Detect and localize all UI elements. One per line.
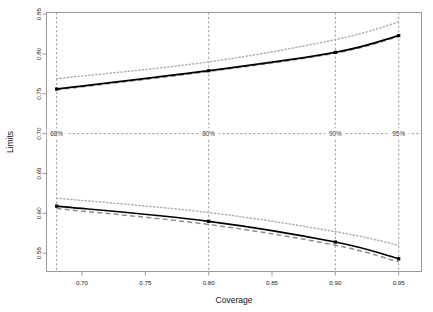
y-axis-title: Limits [5,131,15,153]
annotation-label-95pct: 95% [392,130,405,137]
x-axis-title: Coverage [216,295,253,305]
data-point-marker [397,257,400,260]
data-point-marker [55,87,58,90]
annotation-label-90pct: 90% [329,130,342,137]
y-tick-label: 0.70 [35,127,42,140]
x-tick-label: 0.70 [76,279,89,286]
data-point-marker [334,51,337,54]
y-tick-label: 0.65 [35,167,42,180]
annotation-label-80pct: 80% [202,130,215,137]
chart-figure: 0.550.600.650.700.750.800.85 0.700.750.8… [0,0,433,312]
y-tick-label: 0.75 [35,87,42,100]
data-point-marker [207,220,210,223]
y-tick-label: 0.80 [35,47,42,60]
y-tick-label: 0.85 [35,8,42,21]
annotation-label-68pct: 68% [50,130,63,137]
data-point-marker [334,240,337,243]
data-point-marker [397,34,400,37]
x-tick-label: 0.85 [266,279,279,286]
coverage-limits-plot: 0.550.600.650.700.750.800.85 0.700.750.8… [0,0,433,312]
x-tick-label: 0.75 [139,279,152,286]
data-point-marker [55,205,58,208]
y-tick-label: 0.55 [35,247,42,260]
y-tick-label: 0.60 [35,207,42,220]
x-tick-label: 0.90 [329,279,342,286]
plot-background [0,0,433,312]
data-point-marker [207,69,210,72]
x-tick-label: 0.80 [203,279,216,286]
x-tick-label: 0.95 [393,279,406,286]
